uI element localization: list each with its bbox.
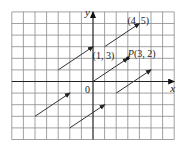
point-label: (1, 3) [93,50,115,62]
vector-diagram: x y 0 (4, 5)(1, 3)P(3, 2) [0,0,185,153]
point-label: (4, 5) [127,15,149,27]
origin-label: 0 [85,84,90,95]
y-axis-label: y [84,6,90,18]
point-label: P(3, 2) [127,48,156,60]
diagram-canvas: x y 0 (4, 5)(1, 3)P(3, 2) [0,0,185,153]
point-labels: (4, 5)(1, 3)P(3, 2) [93,15,156,62]
x-axis-label: x [169,82,175,94]
